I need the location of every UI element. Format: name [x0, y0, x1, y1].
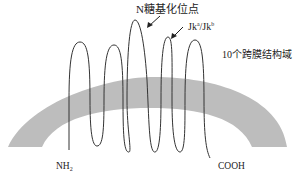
jk-b-base: /Jk — [200, 21, 212, 32]
jk-antigen-label: Jka/Jkb — [188, 21, 214, 32]
membrane-topology-diagram: N糖基化位点 Jka/Jkb 10个跨膜结构域 NH2 COOH — [0, 0, 297, 184]
glycosylation-site-label: N糖基化位点 — [136, 4, 199, 15]
n-terminus-subscript: 2 — [70, 166, 73, 172]
jk-antigen-arrow-icon — [171, 27, 183, 39]
glycosylation-arrow-icon — [147, 16, 160, 28]
jk-a-base: Jk — [188, 21, 197, 32]
jk-b-superscript: b — [211, 21, 214, 27]
n-terminus-base: NH — [56, 161, 70, 171]
c-terminus-label: COOH — [218, 162, 245, 172]
transmembrane-domains-label: 10个跨膜结构域 — [222, 50, 292, 60]
n-terminus-label: NH2 — [56, 162, 73, 172]
